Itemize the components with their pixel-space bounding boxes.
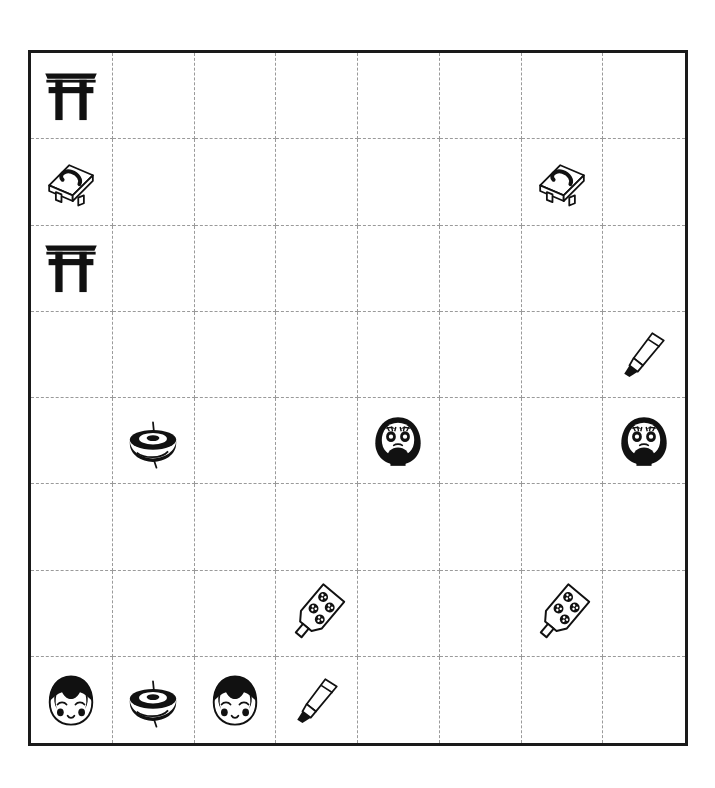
grid-cell-r3-c4[interactable] — [358, 312, 440, 398]
grid-cell-r5-c3[interactable] — [276, 484, 358, 570]
grid-cell-r1-c5[interactable] — [440, 139, 522, 225]
grid-cell-r5-c4[interactable] — [358, 484, 440, 570]
grid-cell-r2-c7[interactable] — [603, 226, 685, 312]
grid-cell-r5-c7[interactable] — [603, 484, 685, 570]
spinning-top-icon — [113, 657, 194, 743]
grid-cell-r0-c1[interactable] — [113, 53, 195, 139]
grid-cell-r4-c6[interactable] — [522, 398, 604, 484]
grid-cell-r0-c3[interactable] — [276, 53, 358, 139]
grid-cell-r2-c3[interactable] — [276, 226, 358, 312]
grid-cell-r2-c2[interactable] — [195, 226, 277, 312]
grid-cell-r6-c4[interactable] — [358, 571, 440, 657]
calligraphy-brush-icon — [603, 312, 685, 397]
grid-cell-r0-c6[interactable] — [522, 53, 604, 139]
grid-cell-r7-c4[interactable] — [358, 657, 440, 743]
daruma-doll-icon — [358, 398, 439, 483]
icon-grid — [31, 53, 685, 743]
grid-cell-r3-c2[interactable] — [195, 312, 277, 398]
calligraphy-brush-icon — [276, 657, 357, 743]
grid-cell-r3-c7[interactable] — [603, 312, 685, 398]
grid-cell-r7-c3[interactable] — [276, 657, 358, 743]
grid-cell-r3-c0[interactable] — [31, 312, 113, 398]
grid-cell-r3-c3[interactable] — [276, 312, 358, 398]
kokeshi-doll-icon — [195, 657, 276, 743]
daruma-doll-icon — [603, 398, 685, 483]
grid-cell-r2-c6[interactable] — [522, 226, 604, 312]
grid-cell-r7-c1[interactable] — [113, 657, 195, 743]
grid-cell-r0-c7[interactable] — [603, 53, 685, 139]
kokeshi-doll-icon — [31, 657, 112, 743]
grid-cell-r7-c7[interactable] — [603, 657, 685, 743]
grid-cell-r4-c7[interactable] — [603, 398, 685, 484]
grid-cell-r4-c4[interactable] — [358, 398, 440, 484]
grid-cell-r5-c0[interactable] — [31, 484, 113, 570]
grid-cell-r5-c6[interactable] — [522, 484, 604, 570]
grid-cell-r0-c0[interactable] — [31, 53, 113, 139]
grid-cell-r3-c6[interactable] — [522, 312, 604, 398]
grid-cell-r6-c5[interactable] — [440, 571, 522, 657]
grid-cell-r7-c2[interactable] — [195, 657, 277, 743]
board-frame — [28, 50, 688, 746]
grid-cell-r0-c4[interactable] — [358, 53, 440, 139]
grid-cell-r6-c1[interactable] — [113, 571, 195, 657]
grid-cell-r7-c0[interactable] — [31, 657, 113, 743]
grid-cell-r3-c5[interactable] — [440, 312, 522, 398]
grid-cell-r0-c2[interactable] — [195, 53, 277, 139]
grid-cell-r5-c1[interactable] — [113, 484, 195, 570]
grid-cell-r2-c4[interactable] — [358, 226, 440, 312]
grid-cell-r1-c7[interactable] — [603, 139, 685, 225]
grid-cell-r2-c0[interactable] — [31, 226, 113, 312]
geta-sandal-icon — [31, 139, 112, 224]
hagoita-paddle-icon — [276, 571, 357, 656]
grid-cell-r5-c2[interactable] — [195, 484, 277, 570]
grid-cell-r4-c5[interactable] — [440, 398, 522, 484]
grid-cell-r3-c1[interactable] — [113, 312, 195, 398]
grid-cell-r1-c3[interactable] — [276, 139, 358, 225]
hagoita-paddle-icon — [522, 571, 603, 656]
grid-cell-r1-c1[interactable] — [113, 139, 195, 225]
grid-cell-r6-c7[interactable] — [603, 571, 685, 657]
grid-cell-r1-c4[interactable] — [358, 139, 440, 225]
grid-cell-r4-c3[interactable] — [276, 398, 358, 484]
grid-cell-r4-c0[interactable] — [31, 398, 113, 484]
grid-cell-r4-c1[interactable] — [113, 398, 195, 484]
grid-cell-r0-c5[interactable] — [440, 53, 522, 139]
grid-cell-r1-c0[interactable] — [31, 139, 113, 225]
grid-cell-r7-c6[interactable] — [522, 657, 604, 743]
grid-cell-r7-c5[interactable] — [440, 657, 522, 743]
torii-gate-icon — [31, 53, 112, 138]
grid-cell-r6-c6[interactable] — [522, 571, 604, 657]
grid-cell-r6-c2[interactable] — [195, 571, 277, 657]
grid-cell-r6-c3[interactable] — [276, 571, 358, 657]
torii-gate-icon — [31, 226, 112, 311]
grid-cell-r5-c5[interactable] — [440, 484, 522, 570]
spinning-top-icon — [113, 398, 194, 483]
grid-cell-r1-c6[interactable] — [522, 139, 604, 225]
grid-cell-r1-c2[interactable] — [195, 139, 277, 225]
grid-cell-r4-c2[interactable] — [195, 398, 277, 484]
geta-sandal-icon — [522, 139, 603, 224]
grid-cell-r2-c5[interactable] — [440, 226, 522, 312]
grid-cell-r6-c0[interactable] — [31, 571, 113, 657]
grid-cell-r2-c1[interactable] — [113, 226, 195, 312]
